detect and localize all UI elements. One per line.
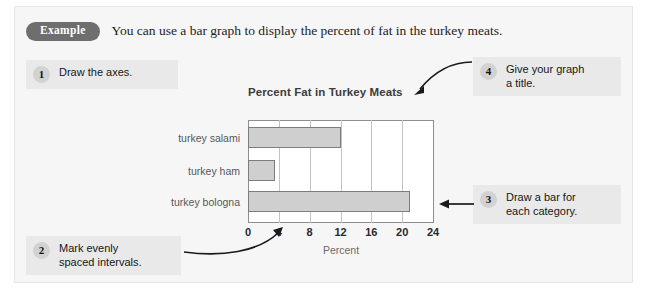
step-text-4: Give your graph a title. bbox=[506, 62, 584, 90]
x-tick-label: 0 bbox=[245, 226, 251, 238]
category-label: turkey salami bbox=[178, 132, 240, 144]
bar bbox=[248, 191, 410, 212]
callout-step-1: 1 Draw the axes. bbox=[26, 60, 178, 89]
category-label: turkey ham bbox=[188, 165, 240, 177]
callout-step-4: 4 Give your graph a title. bbox=[473, 57, 621, 96]
callout-step-3: 3 Draw a bar for each category. bbox=[473, 185, 621, 224]
step-number-2: 2 bbox=[33, 242, 50, 259]
x-tick-label: 4 bbox=[276, 226, 282, 238]
step-text-3: Draw a bar for each category. bbox=[506, 190, 577, 218]
x-tick-label: 24 bbox=[427, 226, 439, 238]
example-badge: Example bbox=[26, 22, 100, 41]
bar-row: turkey ham bbox=[248, 160, 434, 181]
step-text-1: Draw the axes. bbox=[59, 65, 132, 79]
x-tick-label: 12 bbox=[334, 226, 346, 238]
step-text-2: Mark evenly spaced intervals. bbox=[59, 241, 142, 269]
step-number-3: 3 bbox=[480, 191, 497, 208]
chart-title: Percent Fat in Turkey Meats bbox=[248, 86, 403, 98]
example-sentence: You can use a bar graph to display the p… bbox=[112, 23, 503, 39]
bar-row: turkey salami bbox=[248, 127, 434, 148]
example-header: Example You can use a bar graph to displ… bbox=[26, 22, 502, 41]
category-label: turkey bologna bbox=[171, 196, 240, 208]
callout-step-2: 2 Mark evenly spaced intervals. bbox=[26, 236, 181, 275]
x-tick-label: 8 bbox=[307, 226, 313, 238]
x-tick-label: 20 bbox=[396, 226, 408, 238]
x-tick-label: 16 bbox=[365, 226, 377, 238]
bar-row: turkey bologna bbox=[248, 191, 434, 212]
lesson-figure: Example You can use a bar graph to displ… bbox=[0, 0, 647, 303]
x-axis-label: Percent bbox=[323, 244, 359, 256]
bar bbox=[248, 127, 341, 148]
bar-chart: turkey salamiturkey hamturkey bologna 04… bbox=[248, 120, 434, 223]
step-number-1: 1 bbox=[33, 66, 50, 83]
step-number-4: 4 bbox=[480, 63, 497, 80]
bar bbox=[248, 160, 275, 181]
